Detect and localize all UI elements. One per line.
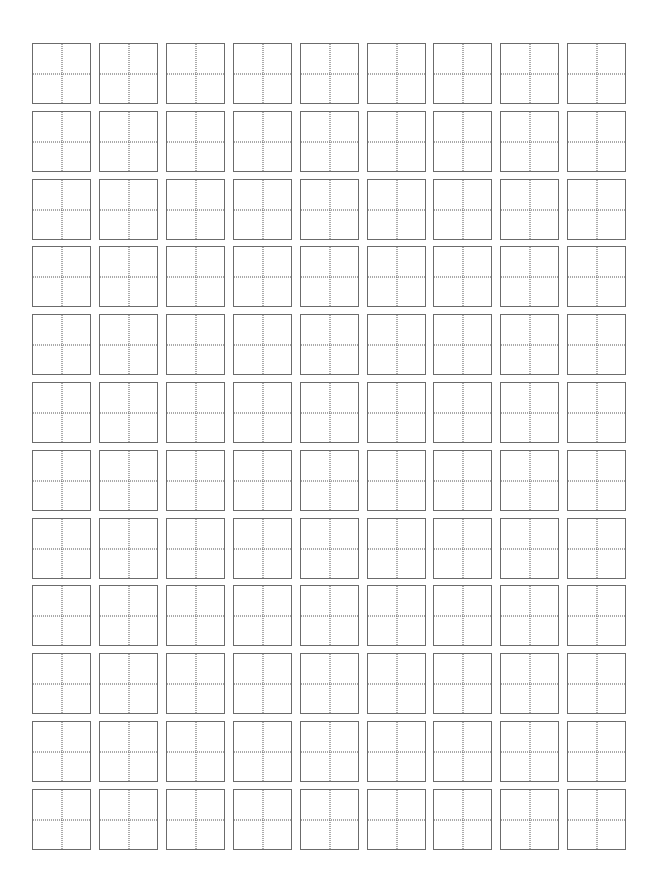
horizontal-guide-line [434, 412, 491, 413]
horizontal-guide-line [568, 548, 625, 549]
horizontal-guide-line [301, 412, 358, 413]
practice-cell [32, 585, 91, 646]
practice-cell [166, 43, 225, 104]
practice-cell [567, 585, 626, 646]
practice-cell [567, 721, 626, 782]
practice-cell [300, 314, 359, 375]
horizontal-guide-line [167, 73, 224, 74]
horizontal-guide-line [33, 344, 90, 345]
horizontal-guide-line [568, 751, 625, 752]
horizontal-guide-line [100, 683, 157, 684]
practice-cell [500, 314, 559, 375]
practice-cell [367, 450, 426, 511]
practice-cell [367, 314, 426, 375]
practice-cell [166, 314, 225, 375]
horizontal-guide-line [33, 276, 90, 277]
practice-cell [233, 111, 292, 172]
practice-cell [99, 314, 158, 375]
horizontal-guide-line [568, 412, 625, 413]
practice-cell [567, 43, 626, 104]
horizontal-guide-line [167, 344, 224, 345]
horizontal-guide-line [368, 73, 425, 74]
horizontal-guide-line [434, 548, 491, 549]
horizontal-guide-line [568, 209, 625, 210]
horizontal-guide-line [501, 548, 558, 549]
practice-cell [500, 653, 559, 714]
horizontal-guide-line [368, 480, 425, 481]
practice-cell [433, 43, 492, 104]
practice-cell [567, 382, 626, 443]
horizontal-guide-line [501, 209, 558, 210]
practice-cell [99, 585, 158, 646]
practice-cell [32, 111, 91, 172]
practice-cell [433, 721, 492, 782]
practice-cell [567, 111, 626, 172]
horizontal-guide-line [33, 73, 90, 74]
practice-cell [99, 43, 158, 104]
horizontal-guide-line [301, 209, 358, 210]
horizontal-guide-line [368, 751, 425, 752]
horizontal-guide-line [100, 276, 157, 277]
practice-cell [500, 789, 559, 850]
horizontal-guide-line [501, 819, 558, 820]
practice-cell [99, 179, 158, 240]
horizontal-guide-line [167, 480, 224, 481]
practice-cell [567, 518, 626, 579]
practice-cell [567, 789, 626, 850]
practice-cell [367, 518, 426, 579]
horizontal-guide-line [234, 141, 291, 142]
horizontal-guide-line [368, 548, 425, 549]
horizontal-guide-line [100, 141, 157, 142]
practice-cell [367, 179, 426, 240]
horizontal-guide-line [33, 141, 90, 142]
horizontal-guide-line [100, 819, 157, 820]
practice-cell [233, 721, 292, 782]
horizontal-guide-line [434, 480, 491, 481]
practice-cell [500, 43, 559, 104]
practice-cell [99, 450, 158, 511]
horizontal-guide-line [234, 548, 291, 549]
practice-cell [500, 246, 559, 307]
practice-cell [166, 246, 225, 307]
practice-cell [433, 450, 492, 511]
horizontal-guide-line [568, 276, 625, 277]
practice-cell [300, 789, 359, 850]
practice-cell [367, 111, 426, 172]
practice-cell [500, 179, 559, 240]
horizontal-guide-line [167, 141, 224, 142]
horizontal-guide-line [301, 141, 358, 142]
horizontal-guide-line [33, 751, 90, 752]
horizontal-guide-line [167, 615, 224, 616]
practice-cell [233, 43, 292, 104]
practice-cell [433, 789, 492, 850]
horizontal-guide-line [33, 615, 90, 616]
horizontal-guide-line [301, 73, 358, 74]
horizontal-guide-line [100, 548, 157, 549]
practice-cell [433, 382, 492, 443]
practice-cell [300, 518, 359, 579]
practice-cell [233, 179, 292, 240]
practice-cell [567, 450, 626, 511]
horizontal-guide-line [568, 819, 625, 820]
practice-cell [367, 721, 426, 782]
practice-cell [300, 179, 359, 240]
practice-cell [433, 314, 492, 375]
practice-cell [166, 382, 225, 443]
practice-cell [433, 246, 492, 307]
practice-cell [233, 585, 292, 646]
practice-cell [32, 789, 91, 850]
horizontal-guide-line [33, 683, 90, 684]
horizontal-guide-line [167, 751, 224, 752]
practice-cell [233, 653, 292, 714]
horizontal-guide-line [167, 209, 224, 210]
practice-cell [300, 43, 359, 104]
practice-cell [300, 653, 359, 714]
practice-cell [500, 382, 559, 443]
horizontal-guide-line [234, 480, 291, 481]
horizontal-guide-line [434, 344, 491, 345]
practice-cell [32, 721, 91, 782]
practice-cell [99, 518, 158, 579]
horizontal-guide-line [33, 819, 90, 820]
horizontal-guide-line [301, 480, 358, 481]
horizontal-guide-line [568, 73, 625, 74]
